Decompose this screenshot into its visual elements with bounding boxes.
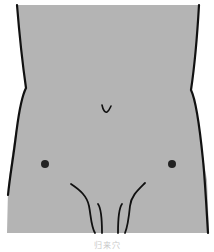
body-fill [7, 5, 209, 233]
figure-caption: 归来穴 [0, 240, 214, 252]
left-acupoint-marker [41, 160, 49, 168]
right-acupoint-marker [168, 160, 176, 168]
abdomen-illustration [0, 0, 214, 236]
